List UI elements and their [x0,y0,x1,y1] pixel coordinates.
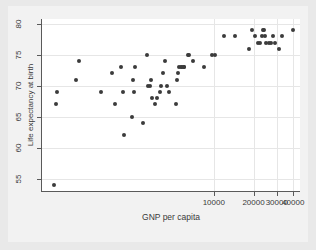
y-axis-tick-label: 55 [14,174,23,183]
data-point [191,59,195,63]
data-point [148,84,152,88]
data-point [163,59,167,63]
data-point [119,65,123,69]
x-axis-tick-label: 40000 [282,198,304,207]
y-axis-tick [37,148,41,149]
data-point [113,102,117,106]
data-point [262,28,266,32]
data-point [159,84,163,88]
gridline-horizontal [42,55,300,56]
gridline-vertical [214,19,215,191]
y-axis-tick-label-box: 75 [0,50,36,60]
gridline-horizontal [42,24,300,25]
y-axis-tick-label: 80 [14,19,23,28]
y-axis-tick [37,55,41,56]
data-point [52,183,56,187]
data-point [54,102,58,106]
data-point [77,59,81,63]
data-point [121,90,125,94]
data-point [155,96,159,100]
data-point [133,65,137,69]
data-point [145,53,149,57]
data-point [233,34,237,38]
gridline-vertical [293,19,294,191]
data-point [291,28,295,32]
data-point [122,133,126,137]
data-point [202,65,206,69]
x-axis-tick [277,192,278,196]
data-point [99,90,103,94]
data-point [247,47,251,51]
data-point [271,34,275,38]
gridline-horizontal [42,117,300,118]
y-axis-tick [37,24,41,25]
data-point [55,90,59,94]
y-axis-tick-label: 70 [14,81,23,90]
data-point [176,71,180,75]
x-axis-title: GNP per capita [142,212,200,222]
data-point [258,41,262,45]
data-point [174,102,178,106]
y-axis-tick [37,117,41,118]
x-axis-tick [254,192,255,196]
data-point [263,34,267,38]
gridline-horizontal [42,86,300,87]
data-point [158,90,162,94]
data-point [273,41,277,45]
x-axis-tick-label: 10000 [203,198,225,207]
y-axis-tick [37,179,41,180]
data-point [74,78,78,82]
data-point [110,71,114,75]
data-point [131,78,135,82]
data-point [165,84,169,88]
data-point [213,53,217,57]
gridline-vertical [277,19,278,191]
y-axis-tick-label: 75 [14,50,23,59]
x-axis-tick [214,192,215,196]
data-point [132,90,136,94]
data-point [141,121,145,125]
x-axis-line [41,191,300,192]
y-axis-tick-label-box: 70 [0,81,36,91]
data-point [222,34,226,38]
data-point [187,53,191,57]
y-axis-tick-label-box: 65 [0,112,36,122]
data-point [280,34,284,38]
plot-area [42,19,300,191]
data-point [175,78,179,82]
y-axis-line [41,19,42,192]
data-point [149,78,153,82]
data-point [277,47,281,51]
y-axis-tick-label: 60 [14,143,23,152]
x-axis-tick [293,192,294,196]
data-point [182,65,186,69]
data-point [150,96,154,100]
scatter-plot-figure: Life expectancy at birth GNP per capita … [0,0,316,250]
y-axis-title-box: Life expectancy at birth [14,19,26,191]
y-axis-tick [37,86,41,87]
data-point [161,71,165,75]
data-point [253,34,257,38]
gridline-horizontal [42,148,300,149]
data-point [167,90,171,94]
y-axis-tick-label-box: 60 [0,143,36,153]
data-point [153,102,157,106]
y-axis-tick-label: 65 [14,112,23,121]
gridline-horizontal [42,179,300,180]
y-axis-title: Life expectancy at birth [26,64,35,146]
data-point [130,115,134,119]
y-axis-tick-label-box: 80 [0,19,36,29]
y-axis-tick-label-box: 55 [0,174,36,184]
x-axis-tick-label: 20000 [242,198,264,207]
gridline-vertical [254,19,255,191]
